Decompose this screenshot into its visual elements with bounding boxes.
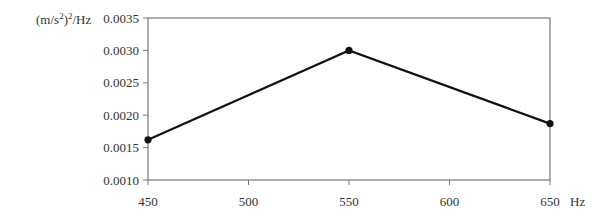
data-point-marker <box>546 120 553 127</box>
y-axis-unit-label: (m/s2)2/Hz <box>36 11 91 27</box>
data-point-marker <box>345 47 352 54</box>
y-tick-label: 0.0025 <box>103 75 139 90</box>
psd-line-chart: 0.00100.00150.00200.00250.00300.0035 450… <box>0 0 613 224</box>
x-tick-label: 650 <box>540 194 560 209</box>
data-point-marker <box>144 136 151 143</box>
x-tick-label: 500 <box>239 194 259 209</box>
plot-frame <box>148 18 550 180</box>
x-tick-label: 450 <box>138 194 158 209</box>
y-tick-label: 0.0035 <box>103 11 139 26</box>
x-tick-label: 600 <box>440 194 460 209</box>
y-tick-label: 0.0020 <box>103 108 139 123</box>
y-tick-label: 0.0010 <box>103 173 139 188</box>
y-axis-ticks: 0.00100.00150.00200.00250.00300.0035 <box>103 11 148 188</box>
data-point-markers <box>144 47 553 144</box>
x-axis-ticks: 450500550600650 <box>138 180 560 209</box>
x-axis-unit-label: Hz <box>570 194 585 209</box>
y-tick-label: 0.0015 <box>103 140 139 155</box>
data-series-line <box>148 50 550 139</box>
y-tick-label: 0.0030 <box>103 43 139 58</box>
x-tick-label: 550 <box>339 194 359 209</box>
